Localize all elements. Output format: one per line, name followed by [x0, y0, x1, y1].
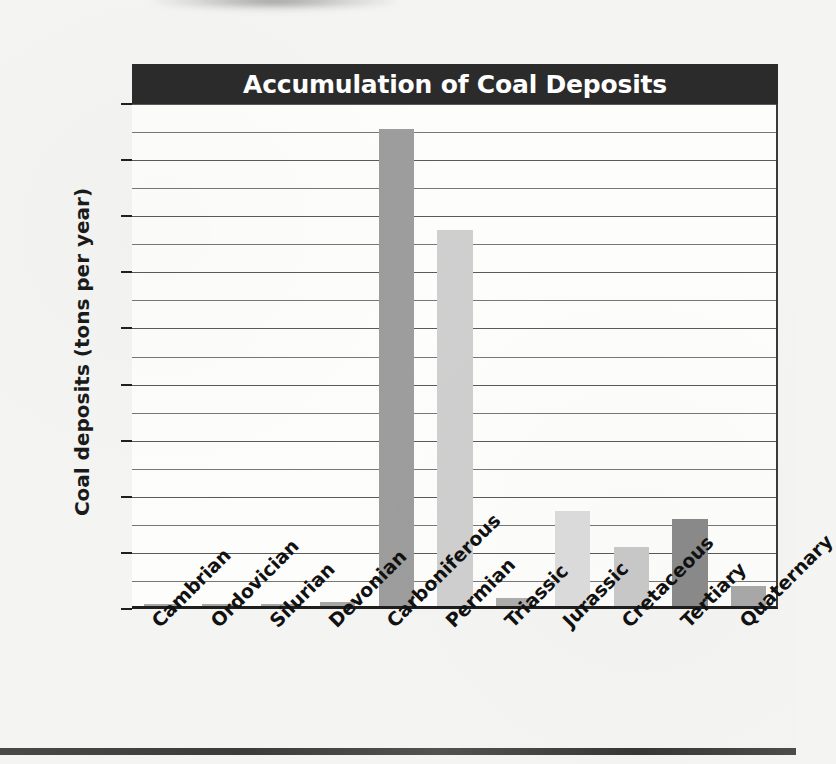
gridline	[132, 160, 776, 161]
gridline	[132, 188, 776, 189]
y-axis-tick-mark	[121, 608, 132, 610]
gridline	[132, 104, 776, 105]
chart-title-bar: Accumulation of Coal Deposits	[132, 64, 778, 104]
y-axis-tick-mark	[121, 215, 132, 217]
y-axis-tick-mark	[121, 496, 132, 498]
gridline	[132, 216, 776, 217]
y-axis-tick-mark	[121, 271, 132, 273]
y-axis-tick-mark	[121, 159, 132, 161]
y-axis-tick-mark	[121, 552, 132, 554]
y-axis-tick-mark	[121, 440, 132, 442]
chart-title: Accumulation of Coal Deposits	[243, 70, 667, 99]
gridline	[132, 132, 776, 133]
y-axis-tick-mark	[121, 384, 132, 386]
plot-area	[132, 104, 778, 609]
scan-band-bottom	[0, 748, 796, 755]
bar	[379, 129, 414, 606]
y-axis-tick-mark	[121, 327, 132, 329]
y-axis-title: Coal deposits (tons per year)	[70, 122, 94, 582]
y-axis-tick-mark	[121, 103, 132, 105]
